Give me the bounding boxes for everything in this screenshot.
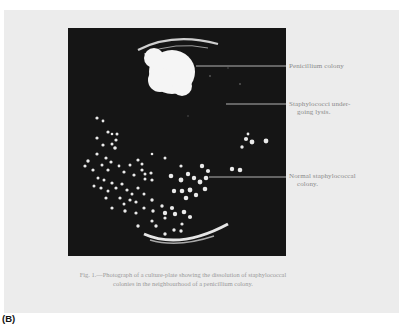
dish-rim-top-reflection [138, 39, 218, 50]
culture-plate-photograph [68, 28, 286, 256]
staphylococcal-colonies [83, 116, 268, 235]
annotation-staphylococci-lysis: Staphylococci under- going lysis. [289, 100, 351, 116]
panel-label: (B) [2, 313, 15, 324]
penicillium-colony [144, 48, 195, 96]
petri-dish-illustration [68, 28, 286, 256]
annotation-penicillium-colony: Penicillium colony [289, 62, 344, 70]
annotation-normal-colony: Normal staphylococcal colony. [289, 172, 356, 188]
figure-caption: Fig. 1.—Photograph of a culture-plate sh… [18, 270, 348, 288]
